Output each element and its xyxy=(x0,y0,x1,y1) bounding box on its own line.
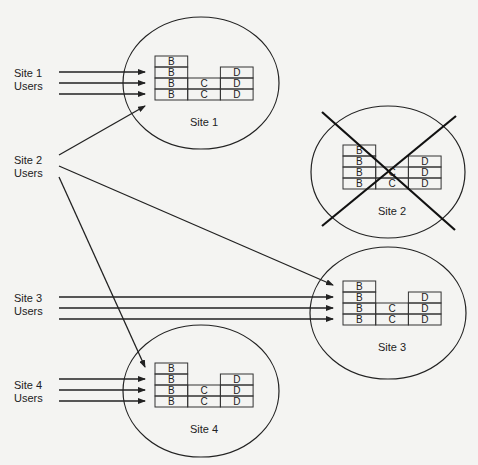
data-block-label: C xyxy=(200,78,207,89)
data-block-label: C xyxy=(388,178,395,189)
data-block-label: B xyxy=(356,303,363,314)
data-block-label: B xyxy=(168,396,175,407)
data-block-label: B xyxy=(168,363,175,374)
site2-label: Site 2 xyxy=(378,205,406,217)
site3-label: Site 3 xyxy=(378,341,406,353)
data-block-label: D xyxy=(233,374,240,385)
data-block-label: D xyxy=(421,292,428,303)
user-group-title: Site 2 xyxy=(14,154,42,166)
data-block-label: B xyxy=(356,281,363,292)
data-block-label: B xyxy=(168,89,175,100)
data-block-label: C xyxy=(388,303,395,314)
distributed-replication-diagram: BBBBCCDDDSite 1BBBBCCDDDSite 2BBBBCCDDDS… xyxy=(0,0,478,465)
data-block-label: D xyxy=(421,167,428,178)
site2-to-site4-arrow xyxy=(59,177,145,367)
site1-node: BBBBCCDDDSite 1 xyxy=(123,17,279,149)
data-block-label: B xyxy=(356,167,363,178)
users4-label: Site 4Users xyxy=(14,379,43,404)
user-group-subtitle: Users xyxy=(14,392,43,404)
data-block-label: D xyxy=(421,178,428,189)
data-block-label: C xyxy=(388,314,395,325)
user-group-subtitle: Users xyxy=(14,305,43,317)
data-block-label: D xyxy=(233,89,240,100)
site3-node: BBBBCCDDDSite 3 xyxy=(310,247,466,379)
data-block-label: D xyxy=(233,385,240,396)
users3-label: Site 3Users xyxy=(14,292,43,317)
data-block-label: B xyxy=(356,314,363,325)
data-block-label: B xyxy=(168,67,175,78)
data-block-label: B xyxy=(356,178,363,189)
data-block-label: D xyxy=(421,303,428,314)
data-block-label: D xyxy=(421,156,428,167)
data-block-label: D xyxy=(233,78,240,89)
data-block-label: B xyxy=(168,385,175,396)
data-block-label: C xyxy=(200,385,207,396)
site4-label: Site 4 xyxy=(190,423,218,435)
data-block-label: D xyxy=(233,396,240,407)
data-block-label: D xyxy=(421,314,428,325)
site4-node: BBBBCCDDDSite 4 xyxy=(123,325,279,457)
user-group-title: Site 4 xyxy=(14,379,42,391)
user-group-title: Site 3 xyxy=(14,292,42,304)
site2-to-site1-arrow xyxy=(59,106,145,155)
data-block-label: B xyxy=(356,292,363,303)
data-block-label: B xyxy=(356,156,363,167)
user-group-subtitle: Users xyxy=(14,167,43,179)
data-block-label: D xyxy=(233,67,240,78)
user-group-title: Site 1 xyxy=(14,67,42,79)
user-group-subtitle: Users xyxy=(14,80,43,92)
data-block-label: B xyxy=(168,56,175,67)
data-block-label: C xyxy=(200,396,207,407)
data-block-label: B xyxy=(168,78,175,89)
users1-label: Site 1Users xyxy=(14,67,43,92)
data-block-label: B xyxy=(168,374,175,385)
users2-label: Site 2Users xyxy=(14,154,43,179)
data-block-label: C xyxy=(200,89,207,100)
site1-label: Site 1 xyxy=(190,116,218,128)
